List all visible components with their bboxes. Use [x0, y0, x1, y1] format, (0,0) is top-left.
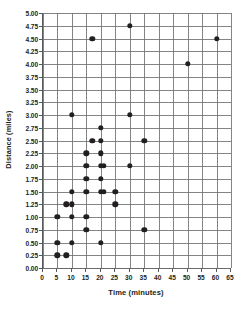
x-axis-tick-label: 40: [154, 274, 161, 281]
y-axis-tick-label: 4.25: [26, 48, 38, 55]
data-point: [98, 151, 103, 156]
y-axis-tick-mark: [39, 90, 43, 91]
y-axis-tick-label: 2.50: [26, 137, 38, 144]
data-point: [55, 253, 60, 258]
y-axis-tick-label: 1.25: [26, 201, 38, 208]
gridline-vertical: [231, 13, 232, 268]
y-axis-tick-label: 4.75: [26, 22, 38, 29]
x-axis-tick-label: 10: [67, 274, 74, 281]
y-axis-tick-label: 2.00: [26, 163, 38, 170]
y-axis-tick-label: 1.50: [26, 188, 38, 195]
x-axis-tick-label: 60: [212, 274, 219, 281]
x-axis-tick-label: 50: [183, 274, 190, 281]
data-point: [84, 189, 89, 194]
y-axis-tick-mark: [39, 217, 43, 218]
y-axis-tick-label: 4.00: [26, 61, 38, 68]
data-point: [84, 176, 89, 181]
data-point: [63, 253, 68, 258]
x-axis-tick-label: 45: [168, 274, 175, 281]
data-points-layer: [43, 13, 231, 268]
data-point: [127, 112, 132, 117]
data-point: [101, 163, 106, 168]
x-axis-tick-label: 25: [111, 274, 118, 281]
data-point: [69, 202, 74, 207]
data-point: [89, 138, 94, 143]
x-axis-tick-mark: [100, 268, 101, 272]
y-axis-tick-mark: [39, 115, 43, 116]
y-axis-tick-label: 3.25: [26, 99, 38, 106]
data-point: [142, 227, 147, 232]
data-point: [113, 202, 118, 207]
y-axis-tick-label: 2.75: [26, 124, 38, 131]
y-axis-tick-mark: [39, 204, 43, 205]
x-axis-tick-label: 5: [55, 274, 59, 281]
data-point: [98, 176, 103, 181]
y-axis-tick-mark: [39, 153, 43, 154]
x-axis-tick-mark: [42, 268, 43, 272]
x-axis-tick-label: 0: [40, 274, 44, 281]
x-axis-tick-mark: [71, 268, 72, 272]
y-axis-tick-mark: [39, 255, 43, 256]
data-point: [127, 163, 132, 168]
y-axis-tick-label: 3.75: [26, 73, 38, 80]
y-axis-tick-label: 4.50: [26, 35, 38, 42]
y-axis-tick-mark: [39, 128, 43, 129]
data-point: [63, 202, 68, 207]
x-axis-tick-marks: [42, 268, 230, 273]
y-axis-tick-label: 2.25: [26, 150, 38, 157]
data-point: [101, 189, 106, 194]
x-axis-tick-mark: [216, 268, 217, 272]
data-point: [69, 189, 74, 194]
x-axis-tick-mark: [114, 268, 115, 272]
data-point: [69, 240, 74, 245]
y-axis-tick-label: 1.00: [26, 214, 38, 221]
data-point: [98, 240, 103, 245]
plot-area: [42, 13, 231, 269]
data-point: [69, 214, 74, 219]
x-axis-tick-mark: [85, 268, 86, 272]
x-axis-tick-label: 20: [96, 274, 103, 281]
x-axis-tick-mark: [172, 268, 173, 272]
data-point: [113, 189, 118, 194]
data-point: [84, 214, 89, 219]
x-axis-tick-mark: [56, 268, 57, 272]
data-point: [55, 240, 60, 245]
x-axis-title: Time (minutes): [42, 288, 230, 297]
y-axis-tick-mark: [39, 13, 43, 14]
x-axis-tick-label: 55: [197, 274, 204, 281]
y-axis-tick-mark: [39, 77, 43, 78]
y-axis-tick-label: 5.00: [26, 10, 38, 17]
data-point: [55, 214, 60, 219]
x-axis-tick-label: 30: [125, 274, 132, 281]
y-axis-tick-mark: [39, 166, 43, 167]
x-axis-tick-mark: [129, 268, 130, 272]
y-axis-tick-mark: [39, 39, 43, 40]
x-axis-tick-mark: [230, 268, 231, 272]
y-axis-title: Distance (miles): [0, 0, 16, 278]
y-axis-tick-label: 1.75: [26, 175, 38, 182]
x-axis-tick-mark: [158, 268, 159, 272]
y-axis-tick-labels: 0.000.250.500.751.001.251.501.752.002.25…: [16, 0, 40, 278]
y-axis-tick-label: 3.50: [26, 86, 38, 93]
x-axis-tick-label: 15: [82, 274, 89, 281]
y-axis-tick-label: 0.50: [26, 239, 38, 246]
y-axis-tick-mark: [39, 102, 43, 103]
x-axis-tick-mark: [201, 268, 202, 272]
y-axis-tick-mark: [39, 179, 43, 180]
y-axis-tick-label: 3.00: [26, 112, 38, 119]
x-axis-tick-label: 35: [140, 274, 147, 281]
data-point: [84, 163, 89, 168]
y-axis-tick-label: 0.75: [26, 226, 38, 233]
y-axis-tick-mark: [39, 192, 43, 193]
data-point: [84, 227, 89, 232]
y-axis-tick-mark: [39, 230, 43, 231]
y-axis-tick-mark: [39, 26, 43, 27]
data-point: [89, 36, 94, 41]
y-axis-tick-label: 0.00: [26, 265, 38, 272]
y-axis-title-label: Distance (miles): [4, 110, 13, 168]
data-point: [214, 36, 219, 41]
x-axis-tick-mark: [187, 268, 188, 272]
x-axis-tick-labels: 05101520253035404550556065: [42, 274, 230, 286]
y-axis-tick-mark: [39, 51, 43, 52]
y-axis-tick-mark: [39, 141, 43, 142]
